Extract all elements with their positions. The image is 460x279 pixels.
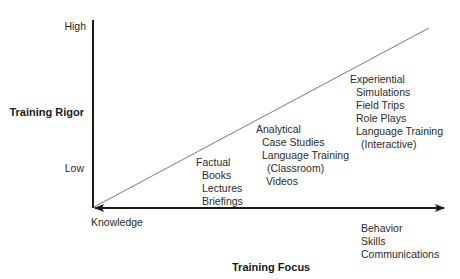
behavior-item: Skills <box>361 235 386 248</box>
y-axis-title: Training Rigor <box>0 106 84 119</box>
group-item: (Classroom) <box>267 162 324 175</box>
group-item: Books <box>202 169 231 182</box>
group-item: Field Trips <box>356 99 404 112</box>
x-axis-left-label: Knowledge <box>91 216 143 229</box>
y-axis-high-label: High <box>40 20 86 33</box>
y-axis-low-label: Low <box>40 162 84 175</box>
x-axis-title: Training Focus <box>232 261 310 274</box>
group-item: Simulations <box>356 86 410 99</box>
group-item: (Interactive) <box>361 138 416 151</box>
group-item: Language Training <box>356 125 443 138</box>
group-item: Briefings <box>202 195 243 208</box>
group-item: Case Studies <box>262 136 324 149</box>
group-item: Role Plays <box>356 112 406 125</box>
behavior-heading: Behavior <box>361 222 402 235</box>
behavior-item: Communications <box>361 248 439 261</box>
group-heading: Experiential <box>350 73 405 86</box>
group-item: Lectures <box>202 182 242 195</box>
group-heading: Analytical <box>256 123 301 136</box>
group-item: Language Training <box>262 149 349 162</box>
group-item: Videos <box>266 175 298 188</box>
group-heading: Factual <box>196 156 230 169</box>
